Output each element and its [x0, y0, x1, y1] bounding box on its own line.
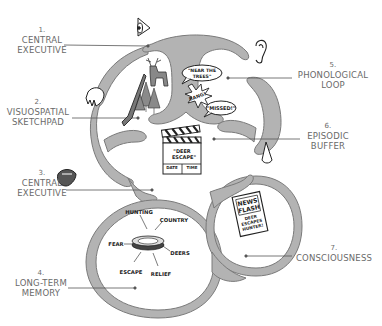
- ear-icon: [256, 40, 266, 63]
- svg-text:COUNTRY: COUNTRY: [160, 217, 189, 223]
- label-line: MEMORY: [22, 288, 60, 298]
- clapperboard-icon: "DEER ESCAPE" DATE TIME: [161, 125, 201, 174]
- label-central-executive-1: 1. CENTRAL EXECUTIVE: [14, 25, 70, 55]
- label-number: 7.: [290, 243, 378, 253]
- newspaper-icon: NEWS FLASH DEER ESCAPES HUNTER!: [232, 192, 268, 237]
- ring-long-term-memory: [86, 200, 222, 318]
- svg-text:HUNTING: HUNTING: [125, 209, 153, 215]
- label-line: LONG-TERM: [15, 278, 67, 288]
- label-phonological-loop: 5. PHONOLOGICAL LOOP: [292, 60, 374, 90]
- label-central-executive-3: 3. CENTRAL EXECUTIVE: [14, 168, 70, 198]
- channel-left-arm: [104, 130, 146, 152]
- channel-right: [247, 77, 281, 154]
- speech-bubble-near-the-trees: "NEAR THE TREES": [182, 65, 222, 84]
- leader-line-1: [64, 45, 148, 46]
- label-line: EXECUTIVE: [17, 188, 66, 198]
- svg-text:TREES": TREES": [193, 74, 212, 79]
- eye-icon: [138, 18, 151, 36]
- label-number: 4.: [10, 268, 72, 278]
- label-line: BUFFER: [311, 141, 345, 151]
- svg-text:TIME: TIME: [187, 165, 198, 170]
- label-line: PHONOLOGICAL: [298, 70, 368, 80]
- label-line: SKETCHPAD: [12, 117, 64, 127]
- label-long-term-memory: 4. LONG-TERM MEMORY: [10, 268, 72, 298]
- label-number: 3.: [14, 168, 70, 178]
- label-episodic-buffer: 6. EPISODIC BUFFER: [298, 121, 358, 151]
- label-number: 2.: [4, 97, 72, 107]
- label-line: CENTRAL: [22, 178, 62, 188]
- speech-bubble-missed: "MISSED!": [204, 101, 236, 117]
- label-visuospatial-sketchpad: 2. VISUOSPATIAL SKETCHPAD: [4, 97, 72, 127]
- label-line: VISUOSPATIAL: [7, 107, 69, 117]
- label-line: EPISODIC: [307, 131, 349, 141]
- label-number: 6.: [298, 121, 358, 131]
- svg-text:RELIEF: RELIEF: [151, 271, 172, 277]
- svg-text:ESCAPE: ESCAPE: [120, 269, 143, 275]
- svg-text:DEERS: DEERS: [170, 250, 190, 256]
- svg-text:FEAR: FEAR: [108, 241, 123, 247]
- label-line: LOOP: [321, 80, 345, 90]
- label-line: CONSCIOUSNESS: [296, 253, 372, 263]
- working-memory-diagram: "NEAR THE TREES" BANG! "MISSED!" "DEER E…: [0, 0, 382, 326]
- svg-text:"MISSED!": "MISSED!": [207, 105, 236, 111]
- svg-text:ESCAPE": ESCAPE": [172, 154, 197, 160]
- label-number: 5.: [292, 60, 374, 70]
- label-number: 1.: [14, 25, 70, 35]
- svg-text:DATE: DATE: [166, 165, 178, 170]
- label-consciousness: 7. CONSCIOUSNESS: [290, 243, 378, 263]
- label-line: CENTRAL: [22, 35, 62, 45]
- label-line: EXECUTIVE: [17, 45, 66, 55]
- svg-text:"NEAR THE: "NEAR THE: [188, 68, 216, 73]
- deer-icon: [146, 58, 168, 86]
